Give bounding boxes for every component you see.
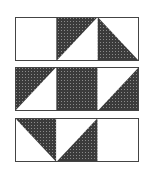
block-cell-1-2 <box>56 17 97 61</box>
dark-triangle <box>56 67 97 111</box>
block-cell-1-1 <box>15 17 56 61</box>
block-row-2 <box>15 67 139 111</box>
block-cell-3-2 <box>56 118 97 162</box>
block-cell-3-1 <box>15 118 56 162</box>
block-row-3 <box>15 118 139 162</box>
block-cell-1-3 <box>98 17 139 61</box>
block-cell-2-1 <box>15 67 56 111</box>
block-cell-2-3 <box>98 67 139 111</box>
block-cell-2-2 <box>56 67 97 111</box>
block-row-1 <box>15 17 139 61</box>
block-cell-3-3 <box>98 118 139 162</box>
